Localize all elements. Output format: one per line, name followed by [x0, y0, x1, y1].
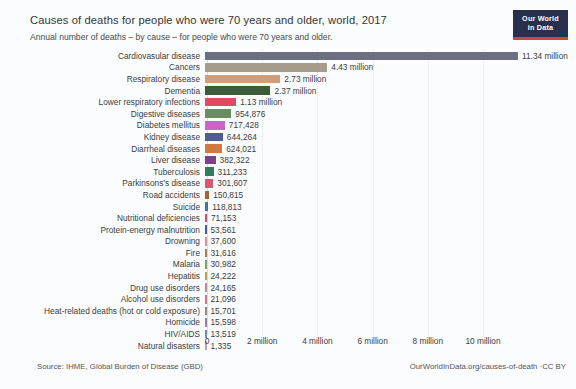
chart-subtitle: Annual number of deaths – by cause – for…: [30, 32, 500, 42]
bar[interactable]: [205, 225, 207, 234]
bar-category-label: Diabetes mellitus: [0, 120, 205, 130]
bar[interactable]: [205, 249, 207, 258]
bar-value-label: 4.43 million: [331, 62, 373, 72]
bar-row[interactable]: Alcohol use disorders21,096: [0, 293, 576, 305]
bar[interactable]: [205, 52, 518, 61]
bar-row[interactable]: Diabetes mellitus717,428: [0, 120, 576, 132]
bar-row[interactable]: Diarrheal diseases624,021: [0, 143, 576, 155]
bar-category-label: Tuberculosis: [0, 167, 205, 177]
bar[interactable]: [205, 109, 231, 118]
bar-wrapper: 150,815: [205, 189, 576, 201]
bar-category-label: Dementia: [0, 86, 205, 96]
bar[interactable]: [205, 202, 208, 211]
bar-wrapper: 71,153: [205, 212, 576, 224]
bar-category-label: Drug use disorders: [0, 283, 205, 293]
bar-row[interactable]: Liver disease382,322: [0, 154, 576, 166]
bar[interactable]: [205, 283, 207, 292]
bar-category-label: Cardiovasular disease: [0, 51, 205, 61]
bar-value-label: 311,233: [218, 167, 247, 177]
bar-row[interactable]: Tuberculosis311,233: [0, 166, 576, 178]
bar[interactable]: [205, 167, 214, 176]
source-note: Source: IHME, Global Burden of Disease (…: [37, 362, 203, 371]
bar-value-label: 37,600: [211, 236, 236, 246]
bar-row[interactable]: Malaria30,982: [0, 259, 576, 271]
bar-row[interactable]: Drug use disorders24,165: [0, 282, 576, 294]
x-axis-tick-label: 2 million: [247, 336, 277, 346]
bar-wrapper: 717,428: [205, 120, 576, 132]
bar-category-label: Drowning: [0, 236, 205, 246]
bar[interactable]: [205, 318, 207, 327]
bar-wrapper: 24,222: [205, 270, 576, 282]
bar-category-label: Diarrheal diseases: [0, 144, 205, 154]
chart-header: Causes of deaths for people who were 70 …: [30, 14, 500, 42]
bar-row[interactable]: Drowning37,600: [0, 236, 576, 248]
bar-wrapper: 301,607: [205, 178, 576, 190]
bar-row[interactable]: Digestive diseases954,876: [0, 108, 576, 120]
page-title: Causes of deaths for people who were 70 …: [30, 14, 500, 26]
bar-category-label: Road accidents: [0, 190, 205, 200]
bar-value-label: 15,701: [211, 306, 236, 316]
license-note[interactable]: OurWorldInData.org/causes-of-death ·CC B…: [410, 362, 566, 371]
bar-wrapper: 24,165: [205, 282, 576, 294]
bar[interactable]: [205, 86, 270, 95]
bar-row[interactable]: Cardiovasular disease11.34 million: [0, 50, 576, 62]
bar-row[interactable]: Lower respiratory infections1.13 million: [0, 96, 576, 108]
bar[interactable]: [205, 98, 236, 107]
plot-area: Cardiovasular disease11.34 millionCancer…: [0, 50, 576, 335]
bar[interactable]: [205, 156, 216, 165]
bar-row[interactable]: Fire31,616: [0, 247, 576, 259]
bar-wrapper: 644,264: [205, 131, 576, 143]
bar-row[interactable]: Cancers4.43 million: [0, 62, 576, 74]
bar-row[interactable]: Suicide118,813: [0, 201, 576, 213]
bar-value-label: 1.13 million: [240, 97, 282, 107]
bar-row[interactable]: Parkinsons's disease301,607: [0, 178, 576, 190]
bar-category-label: Digestive diseases: [0, 109, 205, 119]
bar[interactable]: [205, 260, 207, 269]
bar-row[interactable]: Protein-energy malnutrition53,561: [0, 224, 576, 236]
bar-category-label: Protein-energy malnutrition: [0, 225, 205, 235]
bar[interactable]: [205, 214, 207, 223]
bar-wrapper: 118,813: [205, 201, 576, 213]
bar-value-label: 2.37 million: [274, 86, 316, 96]
bar-wrapper: 37,600: [205, 236, 576, 248]
bar-wrapper: 311,233: [205, 166, 576, 178]
bar-wrapper: 53,561: [205, 224, 576, 236]
our-world-in-data-logo[interactable]: Our World in Data: [513, 10, 568, 40]
x-axis: 02 million4 million6 million8 million10 …: [0, 336, 576, 350]
bar[interactable]: [205, 179, 213, 188]
bar-row[interactable]: Hepatitis24,222: [0, 270, 576, 282]
bar[interactable]: [205, 144, 222, 153]
bar[interactable]: [205, 191, 209, 200]
bar[interactable]: [205, 295, 207, 304]
bar-wrapper: 382,322: [205, 154, 576, 166]
bar-row[interactable]: Respiratory disease2.73 million: [0, 73, 576, 85]
chart-container: Causes of deaths for people who were 70 …: [0, 0, 576, 389]
bar[interactable]: [205, 237, 207, 246]
bar[interactable]: [205, 63, 327, 72]
bar[interactable]: [205, 307, 207, 316]
x-axis-tick-label: 6 million: [357, 336, 387, 346]
bar[interactable]: [205, 121, 225, 130]
bar-value-label: 24,222: [211, 271, 236, 281]
bar[interactable]: [205, 272, 207, 281]
bar-value-label: 382,322: [220, 155, 250, 165]
bar-row[interactable]: Homicide15,598: [0, 317, 576, 329]
bar-row[interactable]: Kidney disease644,264: [0, 131, 576, 143]
bar-value-label: 717,428: [229, 120, 259, 130]
bar-row[interactable]: Road accidents150,815: [0, 189, 576, 201]
logo-line-2: in Data: [528, 24, 553, 32]
x-axis-tick-label: 8 million: [413, 336, 443, 346]
bar-value-label: 15,598: [211, 317, 236, 327]
bar-wrapper: 15,701: [205, 305, 576, 317]
bar-category-label: Fire: [0, 248, 205, 258]
bar-category-label: Lower respiratory infections: [0, 97, 205, 107]
bar-row[interactable]: Dementia2.37 million: [0, 85, 576, 97]
bar[interactable]: [205, 133, 223, 142]
bar-wrapper: 2.37 million: [205, 85, 576, 97]
bar-value-label: 118,813: [212, 202, 241, 212]
bar-row[interactable]: Heat-related deaths (hot or cold exposur…: [0, 305, 576, 317]
bar[interactable]: [205, 75, 280, 84]
bar-value-label: 11.34 million: [522, 51, 568, 61]
bar-value-label: 30,982: [211, 259, 236, 269]
bar-row[interactable]: Nutritional deficiencies71,153: [0, 212, 576, 224]
